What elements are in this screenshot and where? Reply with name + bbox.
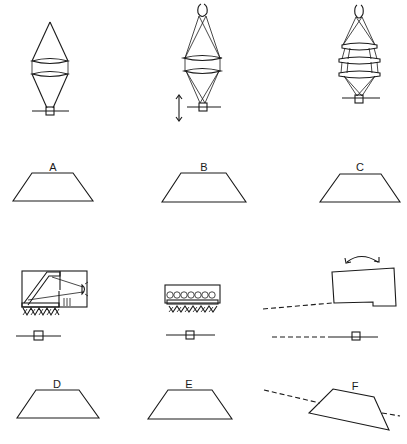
panel-a-optics: [32, 22, 69, 115]
panel-a-stage: A: [13, 161, 93, 201]
panel-label-c: C: [356, 161, 364, 173]
panel-b-optics: [176, 4, 222, 121]
panel-c-stage: C: [320, 161, 400, 202]
optical-diagram: A B C: [0, 0, 407, 444]
panel-c-optics: [339, 5, 380, 103]
specimen-square-icon: [352, 332, 360, 340]
panel-f-tilted: [263, 257, 396, 341]
panel-label-d: D: [53, 378, 61, 390]
panel-label-b: B: [200, 161, 207, 173]
panel-e-stage: E: [148, 378, 232, 419]
specimen-square-icon: [355, 95, 363, 103]
panel-label-a: A: [49, 161, 57, 173]
panel-d-lamp: [16, 271, 88, 340]
panel-f-stage: F: [264, 380, 400, 430]
panel-label-f: F: [352, 380, 359, 392]
panel-label-e: E: [185, 378, 192, 390]
rotation-arrow-icon: [347, 257, 378, 263]
panel-e-array: [165, 285, 220, 339]
light-source-circles-icon: [167, 292, 215, 298]
panel-b-stage: B: [162, 161, 246, 202]
panel-d-stage: D: [17, 378, 99, 418]
